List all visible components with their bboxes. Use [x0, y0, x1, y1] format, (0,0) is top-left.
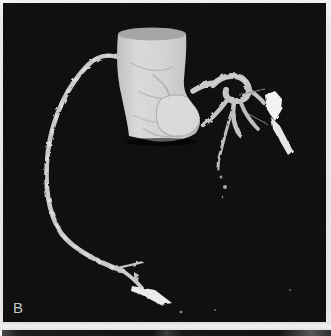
- speck: [220, 176, 223, 179]
- speck: [289, 289, 291, 291]
- ct-angiogram-3d-rendering: [3, 3, 326, 322]
- page-gap: [0, 322, 331, 330]
- speck: [214, 309, 216, 311]
- aorta-cut-cap: [118, 28, 186, 41]
- figure-panel-b: B: [3, 3, 326, 322]
- speck: [180, 311, 183, 314]
- aorta-shadow: [125, 138, 197, 146]
- scanned-page-background: B: [0, 0, 331, 336]
- speck: [223, 185, 227, 189]
- next-panel-edge: [2, 330, 331, 336]
- speck: [221, 196, 224, 199]
- panel-label: B: [13, 300, 24, 315]
